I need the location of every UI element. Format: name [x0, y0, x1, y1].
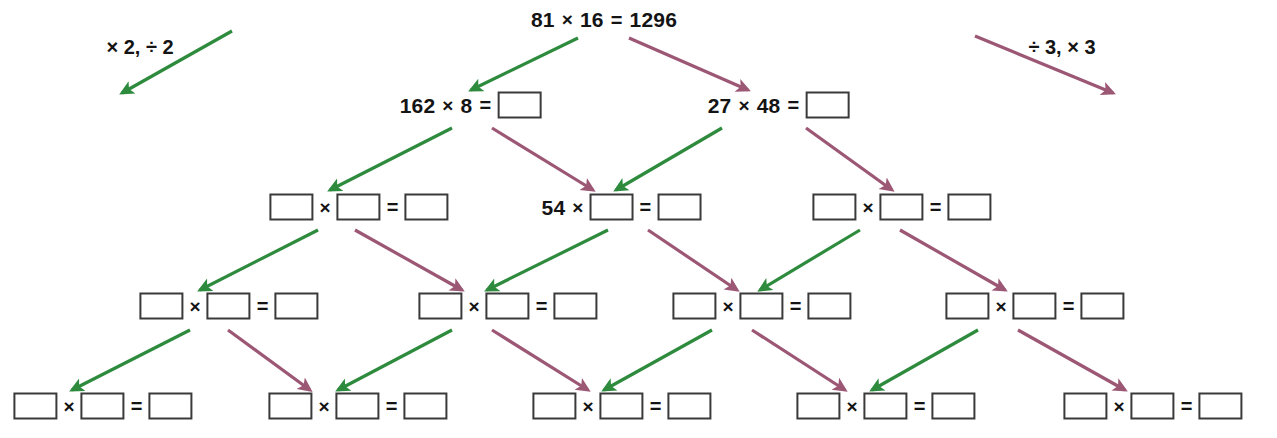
answer-blank-factor-b[interactable] — [590, 194, 634, 221]
purple-arrow-n1-1-to-n2-2 — [806, 128, 892, 190]
equals-symbol: = — [1057, 295, 1081, 318]
term-factor-b: 16 — [579, 8, 605, 32]
answer-blank-factor-b[interactable] — [1131, 393, 1175, 420]
equation-n0-0: 81×16=1296 — [530, 8, 678, 32]
green-arrow-n2-2-to-n3-2 — [760, 230, 860, 290]
equation-n1-1: 27×48= — [707, 92, 850, 119]
multiply-symbol: × — [313, 196, 336, 218]
multiply-symbol: × — [1107, 395, 1130, 417]
equation-n4-3: ×= — [796, 393, 975, 420]
answer-blank-factor-a[interactable] — [945, 293, 989, 320]
green-arrow-n3-1-to-n4-1 — [338, 330, 452, 390]
purple-arrow-n1-0-to-n2-1 — [492, 128, 593, 190]
equals-symbol: = — [924, 196, 948, 219]
equation-n3-1: ×= — [418, 293, 597, 320]
equation-n4-1: ×= — [268, 393, 447, 420]
term-factor-b: 48 — [756, 93, 782, 117]
purple-arrow-n2-0-to-n3-1 — [355, 230, 462, 290]
equation-n3-0: ×= — [139, 293, 318, 320]
answer-blank-product[interactable] — [1199, 393, 1243, 420]
green-arrow-n3-0-to-n4-0 — [72, 330, 190, 390]
answer-blank-factor-b[interactable] — [336, 393, 380, 420]
multiply-symbol: × — [436, 94, 459, 116]
answer-blank-factor-b[interactable] — [740, 293, 784, 320]
answer-blank-product[interactable] — [404, 393, 448, 420]
answer-blank-factor-a[interactable] — [139, 293, 183, 320]
answer-blank-factor-a[interactable] — [796, 393, 840, 420]
multiply-symbol: × — [732, 94, 755, 116]
green-arrow-n3-2-to-n4-2 — [604, 330, 712, 390]
answer-blank-product[interactable] — [808, 293, 852, 320]
answer-blank-factor-b[interactable] — [207, 293, 251, 320]
equals-symbol: = — [473, 94, 497, 117]
answer-blank-factor-b[interactable] — [600, 393, 644, 420]
equals-symbol: = — [380, 395, 404, 418]
answer-blank-product[interactable] — [805, 92, 849, 119]
equals-symbol: = — [644, 395, 668, 418]
green-arrow-n0-0-to-n1-0 — [471, 38, 578, 90]
worksheet-canvas: × 2, ÷ 2 ÷ 3, × 3 81×16=1296162×8=27×48=… — [0, 0, 1277, 438]
equals-symbol: = — [251, 295, 275, 318]
multiply-symbol: × — [840, 395, 863, 417]
equation-n1-0: 162×8= — [399, 92, 542, 119]
multiply-symbol: × — [989, 295, 1012, 317]
equals-symbol: = — [381, 196, 405, 219]
answer-blank-product[interactable] — [275, 293, 319, 320]
answer-blank-product[interactable] — [405, 194, 449, 221]
term-product: 1296 — [629, 8, 679, 32]
equals-symbol: = — [605, 9, 629, 32]
answer-blank-factor-a[interactable] — [812, 194, 856, 221]
answer-blank-factor-b[interactable] — [486, 293, 530, 320]
answer-blank-factor-b[interactable] — [1013, 293, 1057, 320]
multiply-symbol: × — [57, 395, 80, 417]
purple-arrow-n3-3-to-n4-4 — [1018, 330, 1125, 390]
answer-blank-product[interactable] — [668, 393, 712, 420]
answer-blank-product[interactable] — [497, 92, 541, 119]
answer-blank-product[interactable] — [149, 393, 193, 420]
green-arrow-n1-0-to-n2-0 — [330, 128, 452, 190]
answer-blank-factor-b[interactable] — [864, 393, 908, 420]
equation-n2-0: ×= — [269, 194, 448, 221]
legend-divide-multiply-label: ÷ 3, × 3 — [1028, 36, 1095, 59]
equation-n4-2: ×= — [532, 393, 711, 420]
answer-blank-product[interactable] — [657, 194, 701, 221]
multiply-symbol: × — [183, 295, 206, 317]
multiply-symbol: × — [312, 395, 335, 417]
term-factor-a: 27 — [707, 93, 733, 117]
equals-symbol: = — [784, 295, 808, 318]
answer-blank-factor-b[interactable] — [337, 194, 381, 221]
answer-blank-factor-a[interactable] — [1063, 393, 1107, 420]
equation-n2-2: ×= — [812, 194, 991, 221]
purple-arrow-n2-1-to-n3-2 — [648, 230, 737, 290]
term-factor-a: 162 — [399, 93, 437, 117]
answer-blank-factor-a[interactable] — [13, 393, 57, 420]
answer-blank-factor-a[interactable] — [672, 293, 716, 320]
answer-blank-factor-a[interactable] — [268, 393, 312, 420]
legend-halve-double-label: × 2, ÷ 2 — [106, 36, 173, 59]
answer-blank-factor-a[interactable] — [269, 194, 313, 221]
answer-blank-product[interactable] — [948, 194, 992, 221]
green-arrow-n1-1-to-n2-1 — [616, 128, 722, 190]
answer-blank-product[interactable] — [554, 293, 598, 320]
answer-blank-product[interactable] — [1081, 293, 1125, 320]
purple-arrow-n3-0-to-n4-1 — [228, 330, 310, 390]
equation-n4-0: ×= — [13, 393, 192, 420]
equals-symbol: = — [908, 395, 932, 418]
purple-arrow-n0-0-to-n1-1 — [629, 38, 748, 90]
legend-left-text: × 2, ÷ 2 — [106, 36, 173, 58]
purple-arrow-n3-2-to-n4-3 — [752, 330, 845, 390]
equals-symbol: = — [781, 94, 805, 117]
equals-symbol: = — [125, 395, 149, 418]
answer-blank-factor-a[interactable] — [532, 393, 576, 420]
answer-blank-factor-b[interactable] — [880, 194, 924, 221]
answer-blank-factor-a[interactable] — [418, 293, 462, 320]
multiply-symbol: × — [576, 395, 599, 417]
term-factor-a: 54 — [541, 195, 567, 219]
answer-blank-factor-b[interactable] — [81, 393, 125, 420]
equation-n4-4: ×= — [1063, 393, 1242, 420]
term-factor-b: 8 — [460, 93, 474, 117]
green-arrow-n2-0-to-n3-0 — [200, 230, 318, 290]
green-arrow-n2-1-to-n3-1 — [487, 230, 608, 290]
answer-blank-product[interactable] — [932, 393, 976, 420]
multiply-symbol: × — [856, 196, 879, 218]
